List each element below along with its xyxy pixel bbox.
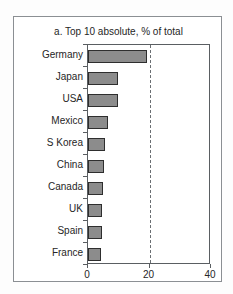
x-axis-tick-label: 40 [204,269,215,280]
bar-row [88,199,209,221]
y-axis-label-usa: USA [14,88,83,110]
bar [88,116,108,129]
y-axis-tick [83,110,87,111]
bar-row [88,243,209,265]
y-axis-label-japan: Japan [14,66,83,88]
y-axis-tick [83,176,87,177]
bar-row [88,67,209,89]
bar-row [88,111,209,133]
y-axis-tick [83,264,87,265]
y-axis-tick [83,66,87,67]
y-axis-tick [83,198,87,199]
bar [88,204,102,217]
y-axis-tick [83,44,87,45]
y-axis-label-china: China [14,154,83,176]
bar [88,50,147,63]
chart-title: a. Top 10 absolute, % of total [14,26,223,37]
y-axis-label-mexico: Mexico [14,110,83,132]
y-axis-category-labels: GermanyJapanUSAMexicoS KoreaChinaCanadaU… [14,44,83,264]
y-axis-label-spain: Spain [14,220,83,242]
x-axis-tick [210,264,211,268]
y-axis-label-uk: UK [14,198,83,220]
bar [88,160,104,173]
bar [88,182,103,195]
y-axis-label-s-korea: S Korea [14,132,83,154]
bar-row [88,45,209,67]
bar [88,94,118,107]
clipped-top-text [0,0,233,9]
y-axis-label-canada: Canada [14,176,83,198]
bar-row [88,89,209,111]
bar [88,138,105,151]
bar-row [88,133,209,155]
bar-row [88,155,209,177]
x-axis-tick [149,264,150,268]
x-axis-tick-label: 20 [143,269,154,280]
y-axis-tick [83,132,87,133]
x-axis-tick [87,264,88,268]
bar [88,248,101,261]
bar-row [88,221,209,243]
plot-area [87,44,210,264]
y-axis-label-germany: Germany [14,44,83,66]
x-axis-tick-label: 0 [84,269,90,280]
y-axis-tick [83,154,87,155]
bar-series [88,45,209,263]
bar-row [88,177,209,199]
x-axis: 02040 [87,264,210,286]
bar [88,72,118,85]
y-axis-label-france: France [14,242,83,264]
y-axis-tick [83,242,87,243]
bar [88,226,102,239]
y-axis-tick [83,220,87,221]
figure-frame: a. Top 10 absolute, % of total GermanyJa… [13,16,222,282]
y-axis-tick [83,88,87,89]
